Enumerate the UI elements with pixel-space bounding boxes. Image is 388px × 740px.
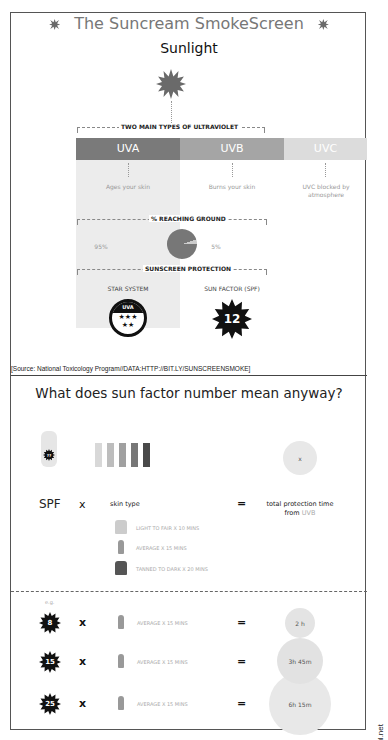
uvb-percent: 5% xyxy=(201,243,231,250)
times-operator: x xyxy=(79,616,86,629)
sun-icon xyxy=(49,19,60,30)
uvc-header: UVC xyxy=(284,138,367,160)
skin-tone-figures xyxy=(95,443,150,471)
skin-type-average: AVERAGE X 15 MINS xyxy=(136,545,187,551)
subtitle: Sunlight xyxy=(11,40,367,56)
star-icon: ★★★ xyxy=(112,313,144,321)
result-circle: 2 h xyxy=(285,608,315,638)
spf-sun-icon: 25 xyxy=(39,693,61,715)
eg-label: e.g. xyxy=(45,599,54,605)
result-term: total protection time from UVB xyxy=(257,500,343,518)
uva-percent: 95% xyxy=(86,243,116,250)
example-result: 6h 15m xyxy=(288,701,311,708)
example-result: 3h 45m xyxy=(288,658,311,665)
source-citation: [Source: National Toxicology Program//DA… xyxy=(11,365,250,372)
title-text: The Suncream SmokeScreen xyxy=(74,14,304,33)
spf-sun-badge: 12 xyxy=(212,299,252,339)
skin-type-dark: TANNED TO DARK X 20 MINS xyxy=(136,566,208,572)
equals-operator: = xyxy=(237,697,246,710)
skin-type-term: skin type xyxy=(110,500,140,508)
equals-operator: = xyxy=(237,497,246,510)
equals-operator: = xyxy=(237,655,246,668)
section-divider xyxy=(11,591,367,592)
uv-types-label: TWO MAIN TYPES OF ULTRAVIOLET xyxy=(119,123,240,130)
badge-text: UVA xyxy=(112,302,144,313)
connector-line xyxy=(325,163,326,177)
times-operator: x xyxy=(79,697,86,710)
section-divider xyxy=(11,375,367,376)
person-icon xyxy=(118,654,124,668)
star-icon: ★★ xyxy=(112,321,144,329)
result-line1: total protection time xyxy=(257,500,343,509)
person-icon xyxy=(115,561,127,575)
uva-star-badge: UVA ★★★ ★★ xyxy=(109,299,147,337)
sun-factor-label: SUN FACTOR (SPF) xyxy=(180,285,284,292)
person-icon xyxy=(118,615,124,629)
example-skin: AVERAGE X 15 MINS xyxy=(137,659,188,665)
example-skin: AVERAGE X 15 MINS xyxy=(137,620,188,626)
example-result: 2 h xyxy=(295,620,305,627)
person-icon xyxy=(115,520,127,534)
example-skin: AVERAGE X 15 MINS xyxy=(137,701,188,707)
section-question: What does sun factor number mean anyway? xyxy=(11,385,367,401)
connector-line xyxy=(232,163,233,177)
uvb-header: UVB xyxy=(180,138,284,160)
reaching-ground-label: % REACHING GROUND xyxy=(149,215,228,222)
skin-type-light: LIGHT TO FAIR X 10 MINS xyxy=(136,525,199,531)
person-icon xyxy=(118,540,124,554)
example-spf: 15 xyxy=(39,651,61,673)
equals-operator: = xyxy=(237,616,246,629)
connector-line xyxy=(128,163,129,177)
connector-line xyxy=(171,101,172,125)
circle-mark: x xyxy=(298,455,302,462)
sun-icon xyxy=(156,69,186,99)
spf-term: SPF xyxy=(39,497,61,511)
page-title: The Suncream SmokeScreen xyxy=(11,13,367,35)
sun-icon xyxy=(318,19,329,30)
spf-value: 12 xyxy=(212,299,252,339)
example-spf: 25 xyxy=(39,693,61,715)
result-circle: x xyxy=(283,441,317,475)
uva-header: UVA xyxy=(76,138,180,160)
example-spf: 8 xyxy=(39,612,61,634)
spf-sun-icon: 15 xyxy=(39,651,61,673)
times-operator: x xyxy=(79,498,86,511)
credit: David McCandless, InformationIsBeautiful… xyxy=(376,724,385,740)
star-system-label: STAR SYSTEM xyxy=(76,285,180,292)
infographic-frame: The Suncream SmokeScreen Sunlight TWO MA… xyxy=(10,12,366,730)
uvc-description: UVC blocked by atmosphere xyxy=(294,183,358,199)
spf-sun-icon: 8 xyxy=(39,612,61,634)
result-prefix: from xyxy=(285,509,300,517)
person-icon xyxy=(118,696,124,710)
times-operator: x xyxy=(79,655,86,668)
result-circle: 3h 45m xyxy=(277,638,323,684)
protection-label: SUNSCREEN PROTECTION xyxy=(143,265,233,272)
uvb-description: Burns your skin xyxy=(180,183,284,191)
result-uv: UVB xyxy=(302,509,316,517)
uva-description: Ages your skin xyxy=(76,183,180,191)
